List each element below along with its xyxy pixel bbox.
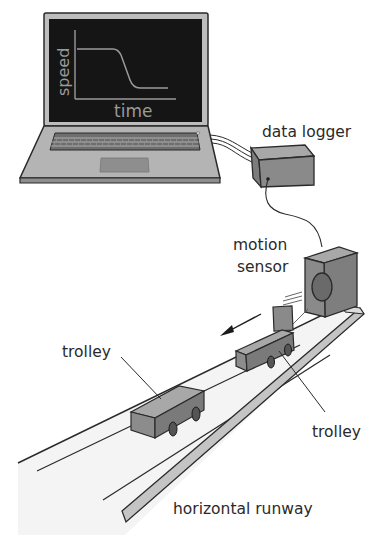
touchpad <box>100 158 149 172</box>
laptop-logger-cable <box>210 135 254 162</box>
laptop: speed time <box>20 13 220 183</box>
label-trolley-right: trolley <box>312 423 361 441</box>
experiment-diagram: speed time data logger <box>0 0 383 537</box>
direction-arrow-icon <box>220 314 261 336</box>
leader-trolley-left <box>121 357 161 399</box>
graph-xlabel: time <box>114 101 152 121</box>
data-logger <box>251 145 314 187</box>
graph-ylabel: speed <box>54 48 73 96</box>
motion-sensor <box>305 247 357 317</box>
label-horizontal-runway: horizontal runway <box>173 500 313 518</box>
sensor-lens <box>312 273 332 301</box>
trolley-flag <box>273 306 293 331</box>
label-trolley-left: trolley <box>62 343 111 361</box>
label-data-logger: data logger <box>262 123 352 141</box>
label-sensor: sensor <box>237 258 289 276</box>
label-motion: motion <box>233 236 287 254</box>
keyboard <box>50 133 200 150</box>
